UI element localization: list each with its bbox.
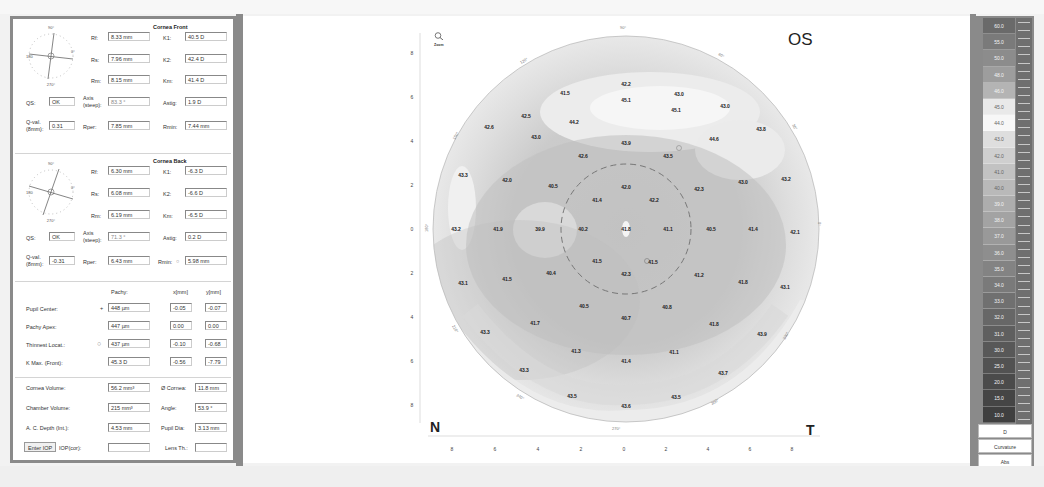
- map-value: 40.4: [546, 270, 556, 276]
- map-value: 41.5: [560, 90, 570, 96]
- map-value: 42.5: [521, 113, 531, 119]
- window-bottom-strip: [0, 466, 1044, 487]
- scale-tick: [1018, 216, 1030, 217]
- x-tick: 6: [494, 446, 497, 452]
- map-value: 41.3: [571, 348, 581, 354]
- map-value: 43.3: [519, 367, 529, 373]
- map-value: 39.9: [535, 226, 545, 232]
- x-tick: 0: [623, 446, 626, 452]
- map-value: 43.8: [756, 126, 766, 132]
- scale-step[interactable]: 42.0: [983, 148, 1015, 164]
- map-value: 43.2: [781, 176, 791, 182]
- scale-step[interactable]: 15.0: [983, 390, 1015, 406]
- scale-tick: [1018, 346, 1030, 347]
- svg-text:30°: 30°: [791, 123, 799, 131]
- scale-step[interactable]: 25.0: [983, 358, 1015, 374]
- scale-tick: [1018, 314, 1030, 315]
- scale-step[interactable]: 50.0: [983, 50, 1015, 66]
- scale-step[interactable]: 33.0: [983, 293, 1015, 309]
- scale-step[interactable]: 30.0: [983, 342, 1015, 358]
- map-value: 41.4: [621, 358, 631, 364]
- map-value: 41.8: [621, 226, 631, 232]
- color-scale[interactable]: 60.055.050.048.046.045.044.043.042.041.0…: [983, 18, 1015, 423]
- scale-tick: [1018, 127, 1030, 128]
- scale-tick: [1018, 208, 1030, 209]
- x-tick: 8: [791, 446, 794, 452]
- curvature-map[interactable]: 90° 120° 150° 180° 210° 240° 270° 300° 3…: [0, 0, 1044, 487]
- color-scale-panel: 60.055.050.048.046.045.044.043.042.041.0…: [976, 16, 1034, 468]
- map-value: 42.6: [578, 153, 588, 159]
- map-value: 41.5: [502, 276, 512, 282]
- scale-tick: [1018, 419, 1030, 420]
- scale-step[interactable]: 35.0: [983, 261, 1015, 277]
- y-tick: 2: [411, 270, 414, 276]
- scale-tick: [1018, 322, 1030, 323]
- scale-step[interactable]: 48.0: [983, 67, 1015, 83]
- scale-tick: [1018, 95, 1030, 96]
- scale-step[interactable]: 32.0: [983, 309, 1015, 325]
- scale-step[interactable]: 20.0: [983, 374, 1015, 390]
- scale-tick: [1018, 257, 1030, 258]
- scale-tick: [1018, 79, 1030, 80]
- svg-text:180°: 180°: [424, 223, 429, 232]
- curvature-mode-button[interactable]: Curvature: [978, 439, 1032, 453]
- map-value: 42.0: [502, 177, 512, 183]
- svg-text:90°: 90°: [620, 25, 626, 30]
- scale-step[interactable]: 39.0: [983, 196, 1015, 212]
- y-tick: 6: [411, 358, 414, 364]
- scale-tick: [1018, 411, 1030, 412]
- scale-tick: [1018, 395, 1030, 396]
- scale-tick: [1018, 370, 1030, 371]
- x-tick: 8: [451, 446, 454, 452]
- map-value: 40.5: [706, 226, 716, 232]
- scale-step[interactable]: 60.0: [983, 18, 1015, 34]
- zoom-button[interactable]: Zoom: [434, 26, 450, 38]
- scale-step[interactable]: 45.0: [983, 99, 1015, 115]
- scale-step[interactable]: 43.0: [983, 131, 1015, 147]
- scale-step[interactable]: 44.0: [983, 115, 1015, 131]
- y-tick: 4: [411, 314, 414, 320]
- scale-tick: [1018, 387, 1030, 388]
- eye-side-label: OS: [788, 30, 813, 50]
- scale-tick: [1018, 87, 1030, 88]
- scale-step[interactable]: 55.0: [983, 34, 1015, 50]
- scale-step[interactable]: 10.0: [983, 407, 1015, 423]
- y-tick: 8: [411, 402, 414, 408]
- map-value: 41.7: [530, 320, 540, 326]
- map-value: 41.9: [493, 226, 503, 232]
- map-value: 43.5: [567, 393, 577, 399]
- map-value: 42.1: [790, 229, 800, 235]
- map-value: 40.2: [578, 226, 588, 232]
- scale-tick: [1018, 265, 1030, 266]
- scale-tick: [1018, 71, 1030, 72]
- map-value: 43.3: [480, 329, 490, 335]
- x-tick: 4: [537, 446, 540, 452]
- magnifier-icon: [434, 32, 444, 40]
- scale-tick: [1018, 338, 1030, 339]
- scale-step[interactable]: 38.0: [983, 212, 1015, 228]
- scale-step[interactable]: 31.0: [983, 326, 1015, 342]
- scale-tick: [1018, 273, 1030, 274]
- scale-tick: [1018, 22, 1030, 23]
- scale-tick: [1018, 289, 1030, 290]
- map-value: 41.2: [694, 272, 704, 278]
- map-value: 43.6: [621, 403, 631, 409]
- scale-tick: [1018, 306, 1030, 307]
- map-value: 42.6: [484, 124, 494, 130]
- map-value: 41.1: [669, 349, 679, 355]
- scale-step[interactable]: 34.0: [983, 277, 1015, 293]
- scale-step[interactable]: 46.0: [983, 83, 1015, 99]
- unit-diopter-button[interactable]: D: [978, 424, 1032, 438]
- scale-tick: [1018, 297, 1030, 298]
- scale-tick: [1018, 200, 1030, 201]
- x-tick: 4: [707, 446, 710, 452]
- y-tick: 0: [411, 226, 414, 232]
- scale-step[interactable]: 41.0: [983, 164, 1015, 180]
- scale-step[interactable]: 37.0: [983, 228, 1015, 244]
- map-value: 45.1: [671, 107, 681, 113]
- map-value: 43.9: [621, 140, 631, 146]
- scale-step[interactable]: 40.0: [983, 180, 1015, 196]
- scale-tick: [1018, 152, 1030, 153]
- scale-tick: [1018, 63, 1030, 64]
- scale-step[interactable]: 36.0: [983, 245, 1015, 261]
